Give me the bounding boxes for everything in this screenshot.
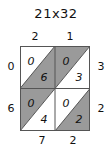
top-label-col-0: 2 bbox=[28, 31, 42, 42]
left-label-row-0: 0 bbox=[4, 61, 18, 72]
cell-1-0-upper-digit: 0 bbox=[25, 98, 37, 109]
top-label-col-1: 1 bbox=[63, 31, 77, 42]
cell-0-1-upper-digit: 0 bbox=[60, 56, 72, 67]
right-label-row-1: 2 bbox=[94, 103, 108, 114]
bottom-label-col-0: 7 bbox=[35, 135, 49, 146]
page-title: 21x32 bbox=[0, 6, 112, 21]
cell-0-0-lower-digit: 6 bbox=[38, 72, 50, 83]
lattice-grid: 0 6 0 3 0 4 0 2 bbox=[20, 46, 90, 131]
left-label-row-1: 6 bbox=[4, 103, 18, 114]
right-label-row-0: 3 bbox=[94, 61, 108, 72]
cell-1-1-lower-digit: 2 bbox=[73, 114, 85, 125]
bottom-label-col-1: 2 bbox=[66, 135, 80, 146]
cell-1-1-upper-digit: 0 bbox=[60, 98, 72, 109]
cell-1-0-lower-digit: 4 bbox=[38, 114, 50, 125]
cell-0-1-lower-digit: 3 bbox=[73, 72, 85, 83]
cell-0-0-upper-digit: 0 bbox=[25, 56, 37, 67]
